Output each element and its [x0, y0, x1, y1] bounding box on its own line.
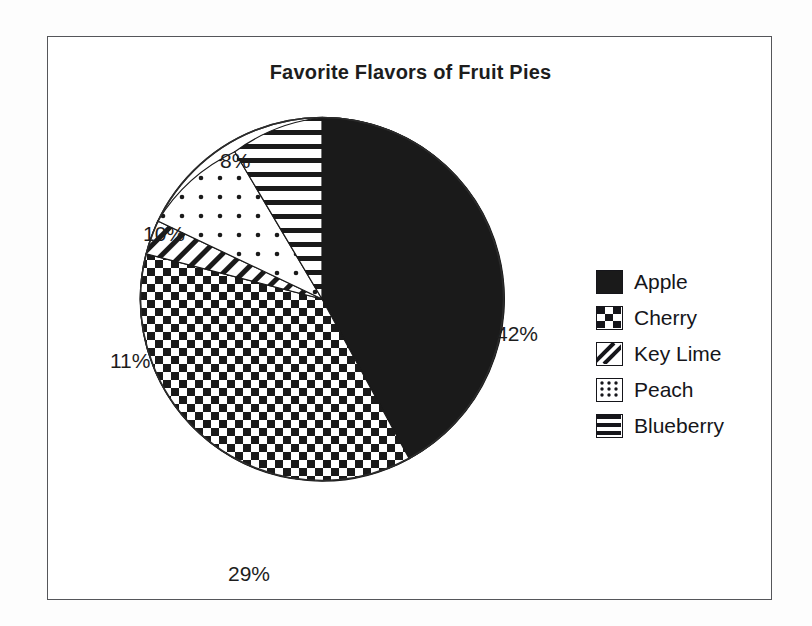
chart-title: Favorite Flavors of Fruit Pies — [48, 61, 773, 84]
checkerboard-swatch — [596, 306, 623, 330]
chart-legend: Apple Cherry — [596, 264, 761, 444]
legend-item-apple: Apple — [596, 264, 761, 300]
slice-label-peach: 10% — [143, 222, 185, 246]
pie-svg — [139, 116, 505, 482]
legend-label-apple: Apple — [634, 270, 688, 294]
legend-label-cherry: Cherry — [634, 306, 697, 330]
legend-item-peach: Peach — [596, 372, 761, 408]
slice-label-cherry: 29% — [228, 562, 270, 586]
diagonal-stripes-swatch — [596, 342, 623, 366]
legend-item-cherry: Cherry — [596, 300, 761, 336]
legend-label-blueberry: Blueberry — [634, 414, 724, 438]
legend-item-keylime: Key Lime — [596, 336, 761, 372]
dots-swatch — [596, 378, 623, 402]
horizontal-lines-swatch — [596, 414, 623, 438]
pie-chart — [139, 116, 505, 482]
slice-label-blueberry: 8% — [220, 149, 250, 173]
chart-frame: Favorite Flavors of Fruit Pies — [47, 36, 772, 600]
slice-label-apple: 42% — [496, 322, 538, 346]
legend-label-peach: Peach — [634, 378, 694, 402]
slice-label-keylime: 11% — [110, 349, 150, 373]
legend-label-keylime: Key Lime — [634, 342, 722, 366]
solid-black-swatch — [596, 270, 623, 294]
legend-item-blueberry: Blueberry — [596, 408, 761, 444]
figure-container: Favorite Flavors of Fruit Pies — [0, 0, 812, 626]
